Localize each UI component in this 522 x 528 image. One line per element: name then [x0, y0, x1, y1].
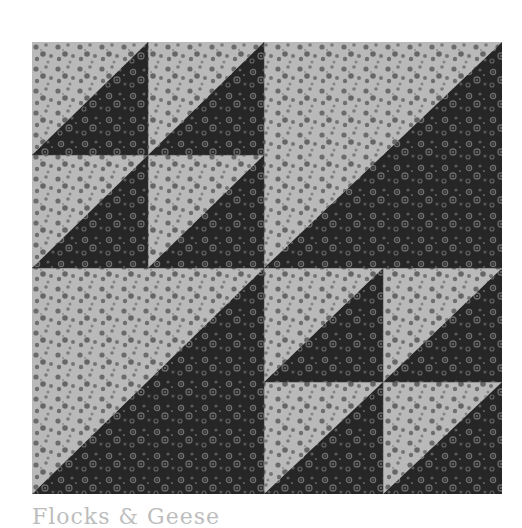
quadrant-top-right: [264, 42, 502, 268]
quadrant-bottom-left: [32, 268, 264, 494]
image-caption: Flocks & Geese: [32, 506, 220, 528]
quilt-block-image: [32, 42, 502, 494]
